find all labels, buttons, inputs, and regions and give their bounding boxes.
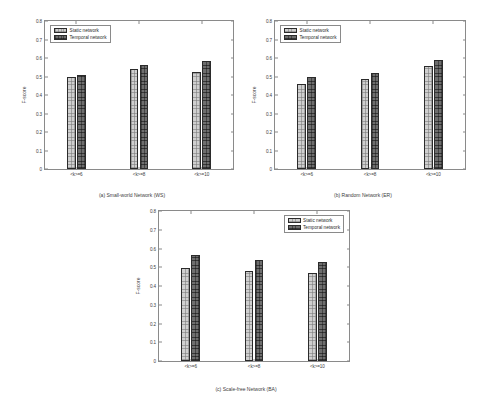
- y-axis-tick-label: 0.7: [266, 37, 275, 42]
- legend-row-static: Static network: [284, 28, 337, 33]
- y-axis-tick-mark: [231, 113, 234, 114]
- bar-temporal-network: [140, 65, 149, 169]
- y-axis-tick-mark: [275, 132, 278, 133]
- bar-temporal-network: [307, 77, 316, 169]
- x-axis-tick-label: <k>=10: [310, 361, 325, 369]
- y-axis-tick-mark: [463, 169, 466, 170]
- y-axis-tick-label: 0.6: [36, 56, 45, 61]
- y-axis-tick-mark: [463, 76, 466, 77]
- legend-label-static: Static network: [70, 28, 99, 33]
- y-axis-tick-label: 0.1: [36, 148, 45, 153]
- panel-caption-b: (b) Random Network (ER): [248, 192, 478, 198]
- figure-canvas: Static network Temporal network 00.10.20…: [0, 0, 488, 398]
- y-axis-tick-label: 0.2: [150, 321, 159, 326]
- legend-swatch-temporal-icon: [284, 35, 297, 40]
- y-axis-tick-mark: [347, 323, 350, 324]
- y-axis-tick-mark: [159, 211, 162, 212]
- y-axis-tick-mark: [45, 58, 48, 59]
- legend-row-static: Static network: [54, 28, 107, 33]
- bar-temporal-network: [371, 73, 380, 169]
- y-axis-tick-label: 0.4: [150, 284, 159, 289]
- x-axis-tick-mark: [201, 21, 202, 24]
- y-axis-tick-mark: [231, 169, 234, 170]
- bar-temporal-network: [318, 262, 327, 361]
- panel-caption-a: (a) Small-world Network (WS): [18, 192, 246, 198]
- y-axis-tick-mark: [231, 76, 234, 77]
- y-axis-tick-mark: [275, 21, 278, 22]
- y-axis-tick-label: 0.1: [266, 148, 275, 153]
- y-axis-tick-mark: [463, 132, 466, 133]
- bar-temporal-network: [202, 61, 211, 169]
- y-axis-tick-label: 0.8: [36, 19, 45, 24]
- y-axis-tick-label: 0.3: [266, 111, 275, 116]
- legend-swatch-static-icon: [288, 218, 301, 223]
- bar-static-network: [308, 273, 317, 361]
- y-axis-tick-label: 0.5: [266, 74, 275, 79]
- legend-label-static: Static network: [300, 28, 329, 33]
- y-axis-tick-mark: [231, 21, 234, 22]
- bar-static-network: [192, 72, 201, 169]
- y-axis-tick-mark: [159, 286, 162, 287]
- y-axis-tick-mark: [159, 323, 162, 324]
- y-axis-tick-mark: [463, 58, 466, 59]
- legend-row-temporal: Temporal network: [288, 225, 341, 230]
- legend-label-static: Static network: [303, 218, 332, 223]
- bar-static-network: [67, 77, 76, 169]
- x-axis-tick-label: <k>=8: [364, 169, 376, 177]
- y-axis-tick-mark: [275, 76, 278, 77]
- legend-label-temporal: Temporal network: [300, 35, 337, 40]
- panel-scale-free: Static network Temporal network 00.10.20…: [130, 204, 362, 394]
- y-axis-tick-mark: [159, 342, 162, 343]
- legend-swatch-static-icon: [54, 28, 67, 33]
- y-axis-tick-label: 0.2: [36, 130, 45, 135]
- y-axis-label: F-score: [21, 87, 27, 104]
- legend-row-temporal: Temporal network: [54, 35, 107, 40]
- y-axis-tick-mark: [275, 58, 278, 59]
- y-axis-tick-mark: [231, 132, 234, 133]
- x-axis-tick-label: <k>=10: [426, 169, 441, 177]
- y-axis-tick-mark: [463, 21, 466, 22]
- x-axis-tick-mark: [433, 21, 434, 24]
- y-axis-tick-label: 0.6: [266, 56, 275, 61]
- x-axis-tick-mark: [76, 21, 77, 24]
- y-axis-tick-mark: [463, 113, 466, 114]
- y-axis-tick-label: 0.7: [36, 37, 45, 42]
- y-axis-tick-label: 0.7: [150, 227, 159, 232]
- legend-swatch-temporal-icon: [54, 35, 67, 40]
- x-axis-tick-label: <k>=6: [70, 169, 82, 177]
- y-axis-tick-label: 0.8: [150, 209, 159, 214]
- legend-a: Static network Temporal network: [50, 25, 111, 43]
- y-axis-tick-label: 0.3: [36, 111, 45, 116]
- legend-swatch-temporal-icon: [288, 225, 301, 230]
- y-axis-tick-mark: [347, 342, 350, 343]
- legend-label-temporal: Temporal network: [303, 225, 340, 230]
- y-axis-tick-mark: [275, 169, 278, 170]
- y-axis-tick-label: 0.4: [266, 93, 275, 98]
- y-axis-tick-mark: [231, 39, 234, 40]
- bar-temporal-network: [255, 260, 264, 361]
- y-axis-tick-mark: [159, 229, 162, 230]
- bar-temporal-network: [191, 255, 200, 362]
- y-axis-tick-label: 0.5: [36, 74, 45, 79]
- y-axis-tick-mark: [159, 361, 162, 362]
- legend-c: Static network Temporal network: [284, 215, 345, 233]
- y-axis-tick-label: 0.8: [266, 19, 275, 24]
- y-axis-tick-mark: [463, 95, 466, 96]
- y-axis-tick-mark: [45, 132, 48, 133]
- bar-static-network: [297, 84, 306, 169]
- y-axis-tick-mark: [45, 113, 48, 114]
- y-axis-tick-mark: [463, 150, 466, 151]
- x-axis-tick-mark: [139, 21, 140, 24]
- panel-random: Static network Temporal network 00.10.20…: [248, 14, 478, 200]
- bar-temporal-network: [434, 60, 443, 169]
- bar-static-network: [181, 268, 190, 361]
- bar-static-network: [361, 79, 370, 169]
- y-axis-tick-mark: [275, 39, 278, 40]
- x-axis-tick-label: <k>=8: [133, 169, 145, 177]
- y-axis-tick-mark: [347, 229, 350, 230]
- x-axis-tick-mark: [306, 21, 307, 24]
- y-axis-tick-mark: [347, 267, 350, 268]
- y-axis-tick-mark: [45, 21, 48, 22]
- y-axis-tick-mark: [347, 248, 350, 249]
- legend-label-temporal: Temporal network: [70, 35, 107, 40]
